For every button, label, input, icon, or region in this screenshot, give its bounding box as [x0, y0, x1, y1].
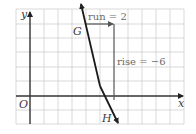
rise-label: rise = −6 [117, 56, 166, 67]
x-axis-label: x [178, 98, 184, 109]
y-axis-label: y [21, 9, 27, 20]
point-h-label: H [102, 113, 112, 124]
point-g-label: G [73, 26, 82, 37]
origin-label: O [19, 99, 28, 110]
run-label: run = 2 [88, 11, 127, 22]
